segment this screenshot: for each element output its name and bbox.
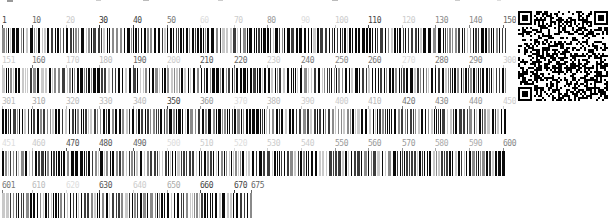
ruler-tick-label: 110 [368, 16, 381, 25]
ruler-tick-label: 450 [503, 97, 516, 106]
ruler-tick-label: 590 [469, 139, 482, 148]
ruler-tick-label: 580 [435, 139, 448, 148]
cropped-text-artifact [455, 0, 460, 1]
ruler-tick-label: 630 [99, 181, 112, 190]
ruler-tick-label: 100 [335, 16, 348, 25]
ruler-tick-label: 460 [32, 139, 45, 148]
ruler-tick-label: 601 [2, 181, 15, 190]
barcode-strip [2, 68, 506, 93]
ruler-tick-label: 290 [469, 56, 482, 65]
ruler-tick-label: 380 [267, 97, 280, 106]
ruler-tick-label: 1 [2, 16, 6, 25]
ruler-tick-label: 40 [133, 16, 142, 25]
barcode-strip [2, 109, 506, 134]
ruler-tick-label: 151 [2, 56, 15, 65]
ruler-tick-label: 430 [435, 97, 448, 106]
ruler-tick-label: 420 [402, 97, 415, 106]
ruler-tick-label: 675 [251, 181, 264, 190]
ruler-tick-label: 330 [99, 97, 112, 106]
ruler-tick-label: 90 [301, 16, 310, 25]
cropped-text-artifact [218, 0, 223, 1]
ruler-tick-label: 440 [469, 97, 482, 106]
barcode-row-3: 3013103203303403503603703803904004104204… [0, 97, 508, 134]
ruler-tick-label: 400 [335, 97, 348, 106]
ruler-tick-label: 260 [368, 56, 381, 65]
ruler-tick-label: 530 [267, 139, 280, 148]
ruler-tick-label: 300 [503, 56, 516, 65]
ruler-tick-label: 270 [402, 56, 415, 65]
ruler-tick-label: 570 [402, 139, 415, 148]
ruler-tick-label: 60 [200, 16, 209, 25]
barcode-row-4: 4514604704804905005105205305405505605705… [0, 139, 508, 176]
ruler-tick-label: 50 [167, 16, 176, 25]
ruler-tick-label: 340 [133, 97, 146, 106]
ruler-tick-label: 210 [200, 56, 213, 65]
ruler-tick-label: 350 [167, 97, 180, 106]
ruler-tick-label: 470 [66, 139, 79, 148]
ruler-tick-label: 390 [301, 97, 314, 106]
ruler-tick-label: 670 [234, 181, 247, 190]
ruler-tick-label: 490 [133, 139, 146, 148]
ruler-tick-label: 150 [503, 16, 516, 25]
barcode-strip [2, 151, 506, 176]
barcode-figure: 1102030405060708090100110120130140150151… [0, 0, 612, 223]
ruler-tick-label: 200 [167, 56, 180, 65]
ruler-tick-label: 451 [2, 139, 15, 148]
ruler-tick-label: 301 [2, 97, 15, 106]
ruler-tick-label: 180 [99, 56, 112, 65]
cropped-text-artifact [497, 0, 501, 1]
cropped-text-artifact [7, 0, 13, 2]
ruler-tick-label: 10 [32, 16, 41, 25]
ruler-tick-label: 540 [301, 139, 314, 148]
ruler-tick-label: 640 [133, 181, 146, 190]
ruler-tick-label: 310 [32, 97, 45, 106]
ruler-tick-label: 120 [402, 16, 415, 25]
qr-code [516, 9, 610, 103]
ruler-tick-label: 190 [133, 56, 146, 65]
ruler-tick-label: 410 [368, 97, 381, 106]
ruler-tick-label: 370 [234, 97, 247, 106]
ruler-tick-label: 140 [469, 16, 482, 25]
ruler-tick-label: 70 [234, 16, 243, 25]
ruler-tick-label: 510 [200, 139, 213, 148]
ruler-tick-label: 80 [267, 16, 276, 25]
cropped-text-artifact [143, 0, 149, 1]
barcode-strip [2, 28, 506, 53]
ruler-tick-label: 320 [66, 97, 79, 106]
ruler-tick-label: 500 [167, 139, 180, 148]
ruler-tick-label: 620 [66, 181, 79, 190]
barcode-strip [2, 193, 254, 218]
ruler-tick-label: 610 [32, 181, 45, 190]
ruler-tick-label: 560 [368, 139, 381, 148]
ruler-tick-label: 520 [234, 139, 247, 148]
ruler-tick-label: 250 [335, 56, 348, 65]
ruler-tick-label: 550 [335, 139, 348, 148]
barcode-row-5: 601610620630640650660670675 [0, 181, 256, 218]
ruler-tick-label: 660 [200, 181, 213, 190]
ruler-tick-label: 480 [99, 139, 112, 148]
ruler-tick-label: 170 [66, 56, 79, 65]
ruler-tick-label: 600 [503, 139, 516, 148]
ruler-tick-label: 230 [267, 56, 280, 65]
cropped-text-artifact [332, 0, 338, 1]
ruler-tick-label: 30 [99, 16, 108, 25]
ruler-tick-label: 360 [200, 97, 213, 106]
cropped-text-artifact [96, 0, 101, 1]
barcode-row-1: 1102030405060708090100110120130140150 [0, 16, 508, 53]
ruler-tick-label: 650 [167, 181, 180, 190]
ruler-tick-label: 240 [301, 56, 314, 65]
ruler-tick-label: 20 [66, 16, 75, 25]
barcode-row-2: 1511601701801902002102202302402502602702… [0, 56, 508, 93]
ruler-tick-label: 220 [234, 56, 247, 65]
ruler-tick-label: 160 [32, 56, 45, 65]
ruler-tick-label: 280 [435, 56, 448, 65]
ruler-tick-label: 130 [435, 16, 448, 25]
